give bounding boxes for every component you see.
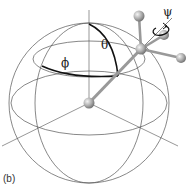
x-axis <box>2 103 89 146</box>
atom-top <box>134 11 145 22</box>
phi-label: ϕ <box>61 57 69 69</box>
atom-center-origin <box>84 98 95 109</box>
euler-angle-diagram <box>0 0 188 188</box>
panel-label: (b) <box>3 174 15 184</box>
bond-right <box>141 49 181 58</box>
atom-central <box>136 44 147 55</box>
coordinate-axes <box>2 10 178 146</box>
atom-right <box>176 53 186 63</box>
y-axis <box>89 103 178 146</box>
theta-label: θ <box>101 39 108 51</box>
psi-label: ψ <box>163 6 172 18</box>
